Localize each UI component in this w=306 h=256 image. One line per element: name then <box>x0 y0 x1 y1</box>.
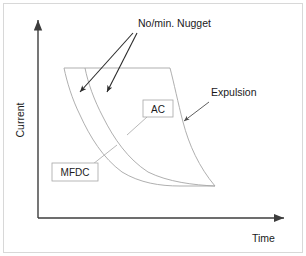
annotation-no-min-nugget: No/min. Nugget <box>80 17 211 92</box>
diagram-figure: Current Time No/min. Nugget Expulsion <box>0 0 306 256</box>
axes-group <box>38 20 284 218</box>
ac-left-boundary-curve <box>85 68 215 186</box>
no-min-nugget-arrow-left <box>80 33 133 92</box>
x-axis-label: Time <box>252 232 275 244</box>
expulsion-boundary-curve <box>170 68 215 186</box>
y-axis-label: Current <box>14 102 26 137</box>
mfdc-leader-line <box>93 145 117 164</box>
expulsion-arrow <box>184 102 209 121</box>
annotation-expulsion: Expulsion <box>184 86 257 121</box>
ac-callout-label: AC <box>151 104 165 115</box>
expulsion-label: Expulsion <box>211 86 257 98</box>
no-min-nugget-label: No/min. Nugget <box>138 17 211 29</box>
figure-border <box>4 4 303 253</box>
callout-mfdc: MFDC <box>52 145 117 181</box>
no-min-nugget-arrow-right <box>107 33 137 92</box>
callout-ac: AC <box>127 100 173 135</box>
ac-leader-line <box>127 117 147 135</box>
mfdc-callout-label: MFDC <box>61 167 90 178</box>
